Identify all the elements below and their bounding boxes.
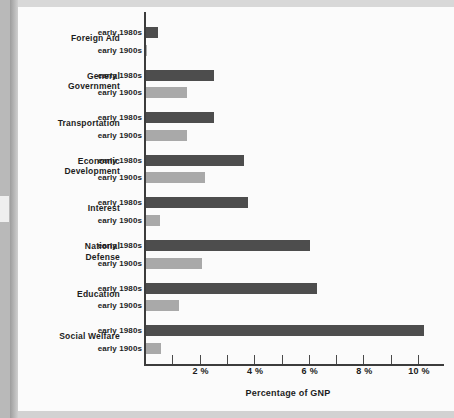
series-row-label: early 1980s [92,28,142,37]
bar [146,70,214,81]
bar [146,300,179,311]
x-axis-tick [309,355,310,364]
series-row-label: early 1980s [92,156,142,165]
bar [146,258,202,269]
x-axis-tick [200,355,201,364]
series-row-label: early 1900s [92,131,142,140]
bar [146,325,424,336]
series-row-label: early 1900s [92,259,142,268]
x-axis-tick [282,355,283,364]
bar [146,155,244,166]
series-row-label: early 1900s [92,301,142,310]
bar [146,130,187,141]
x-axis-tick-label: 8 % [356,366,372,376]
x-axis-tick-label: 6 % [302,366,318,376]
series-row-label: early 1900s [92,173,142,182]
series-row-label: early 1980s [92,326,142,335]
bar [146,87,187,98]
x-axis-tick [363,355,364,364]
series-row-label: early 1980s [92,71,142,80]
series-row-label: early 1980s [92,284,142,293]
chart-page: 2 %4 %6 %8 %10 % Foreign Aidearly 1980se… [0,0,454,418]
x-axis-title: Percentage of GNP [246,388,331,398]
bar [146,197,248,208]
bar [146,215,160,226]
bar [146,283,317,294]
x-axis-tick [391,355,392,364]
x-axis-tick-label: 4 % [247,366,263,376]
bar [146,240,310,251]
x-axis-tick [254,355,255,364]
bar [146,112,214,123]
series-row-label: early 1900s [92,46,142,55]
x-axis-line [144,364,444,366]
bar [146,27,158,38]
x-axis-tick-label: 2 % [192,366,208,376]
bar-chart: 2 %4 %6 %8 %10 % Foreign Aidearly 1980se… [0,0,454,418]
bar [146,343,161,354]
y-axis-line [144,12,146,365]
series-row-label: early 1900s [92,344,142,353]
x-axis-tick [336,355,337,364]
bar [146,45,147,56]
x-axis-tick [172,355,173,364]
x-axis-tick [418,355,419,364]
series-row-label: early 1980s [92,198,142,207]
series-row-label: early 1980s [92,241,142,250]
series-row-label: early 1980s [92,113,142,122]
x-axis-tick [227,355,228,364]
series-row-label: early 1900s [92,88,142,97]
series-row-label: early 1900s [92,216,142,225]
x-axis-tick-label: 10 % [408,366,430,376]
bar [146,172,205,183]
